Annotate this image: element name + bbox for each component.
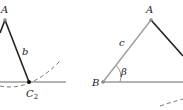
vertex-a-label-right: A — [145, 4, 153, 15]
side-c-label: c — [119, 37, 125, 48]
right-panel: A B c β — [91, 4, 183, 106]
point-a-left — [3, 18, 7, 22]
side-b-label: b — [22, 46, 28, 57]
dashed-arc-right — [160, 99, 183, 106]
vertex-b-label: B — [91, 77, 99, 88]
vertex-c2-label: C2 — [26, 88, 38, 101]
triangle-diagram: A b C2 A B c β — [0, 0, 183, 110]
point-a-right — [149, 18, 153, 22]
left-panel: A b C2 — [0, 4, 66, 101]
point-b — [101, 80, 105, 84]
side-a-right — [151, 20, 183, 56]
angle-beta-label: β — [120, 66, 127, 77]
side-c — [103, 20, 151, 82]
vertex-a-label-left: A — [0, 4, 8, 15]
point-c2 — [27, 80, 31, 84]
side-a-left — [0, 20, 5, 33]
